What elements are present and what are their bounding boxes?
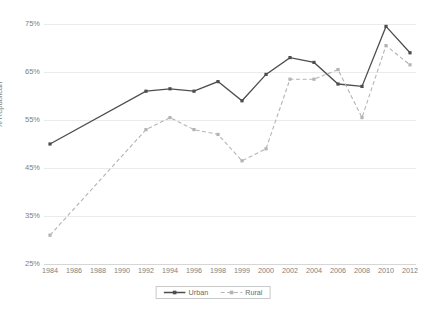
series-urban xyxy=(48,25,411,146)
data-point-marker xyxy=(360,85,363,88)
x-tick-label: 2010 xyxy=(378,267,394,274)
legend-item-urban[interactable]: Urban xyxy=(164,288,209,297)
y-axis-title: % Republican xyxy=(0,82,4,128)
legend-swatch-icon xyxy=(164,288,186,297)
x-tick-label: 1994 xyxy=(162,267,178,274)
data-point-marker xyxy=(336,68,339,71)
series-line xyxy=(50,26,410,144)
data-point-marker xyxy=(216,80,219,83)
x-axis-tick-labels: 1984198619881990199219941996199819992000… xyxy=(44,267,416,281)
x-tick-label: 1992 xyxy=(138,267,154,274)
y-tick-label: 25% xyxy=(4,260,40,268)
x-tick-label: 2012 xyxy=(402,267,418,274)
x-tick-label: 1990 xyxy=(114,267,130,274)
data-point-marker xyxy=(48,234,51,237)
x-tick-label: 1996 xyxy=(186,267,202,274)
y-tick-label: 65% xyxy=(4,68,40,76)
data-point-marker xyxy=(240,99,243,102)
x-tick-label: 2006 xyxy=(330,267,346,274)
data-point-marker xyxy=(264,73,267,76)
data-point-marker xyxy=(312,78,315,81)
data-point-marker xyxy=(144,128,147,131)
legend-item-rural[interactable]: Rural xyxy=(220,288,262,297)
data-point-marker xyxy=(408,51,411,54)
series-rural xyxy=(48,44,411,237)
x-tick-label: 1998 xyxy=(210,267,226,274)
y-tick-label: 55% xyxy=(4,116,40,124)
x-tick-label: 2008 xyxy=(354,267,370,274)
line-chart: % Republican 75%65%55%45%35%25% 19841986… xyxy=(0,0,426,312)
data-point-marker xyxy=(168,116,171,119)
data-point-marker xyxy=(336,82,339,85)
x-tick-label: 2004 xyxy=(306,267,322,274)
data-point-marker xyxy=(384,44,387,47)
y-tick-label: 35% xyxy=(4,212,40,220)
data-point-marker xyxy=(48,142,51,145)
x-tick-label: 1984 xyxy=(42,267,58,274)
data-point-marker xyxy=(240,159,243,162)
x-tick-label: 1999 xyxy=(234,267,250,274)
gridline xyxy=(44,264,416,265)
data-point-marker xyxy=(312,61,315,64)
data-point-marker xyxy=(384,25,387,28)
plot-area xyxy=(44,24,416,264)
data-point-marker xyxy=(288,56,291,59)
chart-legend: UrbanRural xyxy=(156,286,271,299)
series-line xyxy=(50,46,410,236)
x-tick-label: 2002 xyxy=(282,267,298,274)
legend-label: Rural xyxy=(245,289,262,296)
x-tick-label: 2000 xyxy=(258,267,274,274)
y-tick-label: 75% xyxy=(4,20,40,28)
data-point-marker xyxy=(360,116,363,119)
x-tick-label: 1986 xyxy=(66,267,82,274)
series-layer xyxy=(44,24,416,264)
data-point-marker xyxy=(168,87,171,90)
data-point-marker xyxy=(216,133,219,136)
data-point-marker xyxy=(192,128,195,131)
legend-swatch-icon xyxy=(220,288,242,297)
data-point-marker xyxy=(192,90,195,93)
legend-label: Urban xyxy=(189,289,209,296)
y-tick-label: 45% xyxy=(4,164,40,172)
data-point-marker xyxy=(144,90,147,93)
data-point-marker xyxy=(288,78,291,81)
data-point-marker xyxy=(264,147,267,150)
x-tick-label: 1988 xyxy=(90,267,106,274)
data-point-marker xyxy=(408,63,411,66)
